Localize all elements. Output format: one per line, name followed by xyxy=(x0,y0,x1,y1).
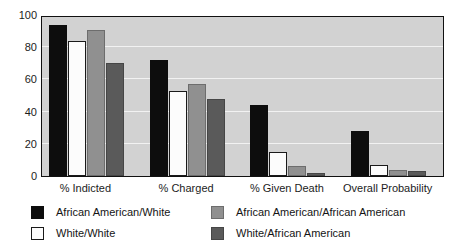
legend-label: African American/White xyxy=(56,206,170,219)
bar xyxy=(307,173,325,176)
y-tick-label: 100 xyxy=(0,10,37,21)
bar-chart-figure: 020406080100 % Indicted% Charged% Given … xyxy=(0,0,456,250)
bar xyxy=(408,171,426,176)
legend-entry: White/African American xyxy=(211,227,350,240)
y-tick-label: 80 xyxy=(0,42,37,53)
x-axis: % Indicted% Charged% Given DeathOverall … xyxy=(41,182,444,198)
bar-group xyxy=(344,17,445,176)
legend-swatch-icon xyxy=(31,206,44,219)
plot-area xyxy=(41,16,444,177)
bar xyxy=(207,99,225,176)
chart-legend: African American/WhiteAfrican American/A… xyxy=(31,206,451,246)
bar xyxy=(288,166,306,176)
legend-swatch-icon xyxy=(211,227,224,240)
legend-swatch-icon xyxy=(31,227,44,240)
legend-label: White/White xyxy=(56,227,115,240)
bar xyxy=(351,131,369,176)
bar xyxy=(150,60,168,176)
bar xyxy=(389,170,407,176)
legend-entry: White/White xyxy=(31,227,115,240)
bar-group xyxy=(244,17,345,176)
legend-label: African American/African American xyxy=(236,206,405,219)
bar xyxy=(250,105,268,176)
bar xyxy=(169,91,187,176)
y-tick-label: 0 xyxy=(0,171,37,182)
y-tick-label: 40 xyxy=(0,107,37,118)
bar-group xyxy=(143,17,244,176)
bar-group xyxy=(42,17,143,176)
legend-entry: African American/African American xyxy=(211,206,405,219)
bar xyxy=(49,25,67,176)
legend-entry: African American/White xyxy=(31,206,170,219)
bar xyxy=(68,41,86,176)
bar xyxy=(87,30,105,177)
legend-label: White/African American xyxy=(236,227,350,240)
bars-layer xyxy=(42,17,443,176)
y-tick-label: 20 xyxy=(0,139,37,150)
bar xyxy=(106,63,124,176)
x-tick-label: Overall Probability xyxy=(328,182,448,195)
legend-swatch-icon xyxy=(211,206,224,219)
bar xyxy=(269,152,287,176)
y-tick-label: 60 xyxy=(0,74,37,85)
bar xyxy=(370,165,388,176)
bar xyxy=(188,84,206,176)
